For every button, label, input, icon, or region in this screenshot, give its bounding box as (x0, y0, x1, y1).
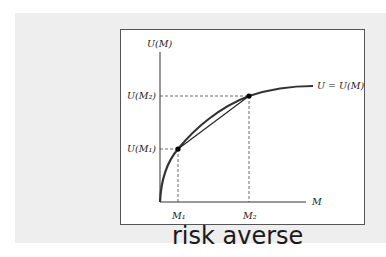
utility-diagram: U(M) M U = U(M) U(M₂) U(M₁) M₁ M₂ (0, 0, 386, 257)
tick-u-m2: U(M₂) (127, 90, 156, 101)
utility-curve (160, 86, 313, 202)
x-axis-label: M (311, 196, 322, 207)
tick-m1: M₁ (171, 210, 186, 221)
handwritten-annotation: risk averse (172, 221, 303, 250)
tick-m2: M₂ (242, 210, 257, 221)
tick-u-m1: U(M₁) (127, 143, 156, 154)
point-m1 (175, 146, 180, 151)
point-m2 (246, 93, 251, 98)
y-axis-label: U(M) (147, 38, 172, 49)
chord-line (178, 96, 249, 149)
curve-label: U = U(M) (317, 80, 364, 91)
